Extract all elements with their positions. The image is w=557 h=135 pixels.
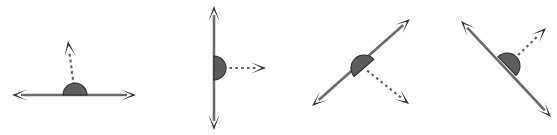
figure-1 [12,41,136,101]
figure-2 [209,6,267,130]
figure-3-dashed-ray [367,70,401,97]
figure-4-dashed-arrowhead-icon [531,28,546,42]
figure-1-angle-arc [63,83,87,95]
figure-3 [312,19,410,106]
figure-3-angle-arc [351,55,374,77]
figures-canvas [0,0,557,135]
figure-2-angle-arc [214,56,226,80]
figure-4-solid-line [467,28,545,111]
geometry-figures-board [0,0,557,135]
figure-4 [461,21,551,117]
